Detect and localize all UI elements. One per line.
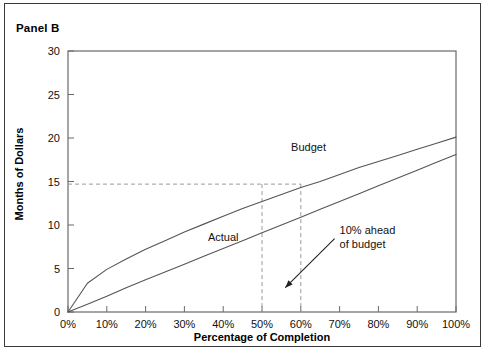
x-tick-label: 0%	[60, 318, 76, 330]
y-tick-label: 0	[54, 306, 60, 318]
budget-series-label: Budget	[291, 141, 326, 153]
plot-frame	[68, 51, 456, 312]
reference-lines	[68, 184, 301, 312]
series-labels: BudgetActual	[208, 141, 326, 243]
y-tick-label: 25	[48, 89, 60, 101]
y-tick-label: 5	[54, 263, 60, 275]
actual-series-label: Actual	[208, 231, 239, 243]
figure-container: Panel B Months of Dollars Percentage of …	[0, 0, 485, 353]
x-tick-label: 10%	[96, 318, 118, 330]
x-tick-label: 60%	[290, 318, 312, 330]
plot-area-border	[68, 51, 456, 312]
x-tick-label: 70%	[329, 318, 351, 330]
x-tick-label: 40%	[212, 318, 234, 330]
x-axis-ticks: 0%10%20%30%40%50%60%70%80%90%100%	[60, 306, 470, 330]
x-tick-label: 50%	[251, 318, 273, 330]
x-tick-label: 20%	[135, 318, 157, 330]
y-axis-ticks: 051015202530	[48, 45, 74, 318]
y-tick-label: 20	[48, 132, 60, 144]
callout-line-1: 10% ahead	[340, 224, 396, 236]
x-tick-label: 100%	[442, 318, 470, 330]
chart-plot: 051015202530 0%10%20%30%40%50%60%70%80%9…	[0, 0, 485, 353]
annotation-callout: 10% aheadof budget	[285, 224, 395, 288]
y-tick-label: 30	[48, 45, 60, 57]
callout-line-2: of budget	[340, 238, 386, 250]
y-tick-label: 15	[48, 176, 60, 188]
series-line-actual	[68, 155, 456, 312]
y-tick-label: 10	[48, 219, 60, 231]
x-tick-label: 30%	[173, 318, 195, 330]
x-tick-label: 80%	[367, 318, 389, 330]
callout-arrow-line	[285, 239, 334, 288]
x-tick-label: 90%	[406, 318, 428, 330]
